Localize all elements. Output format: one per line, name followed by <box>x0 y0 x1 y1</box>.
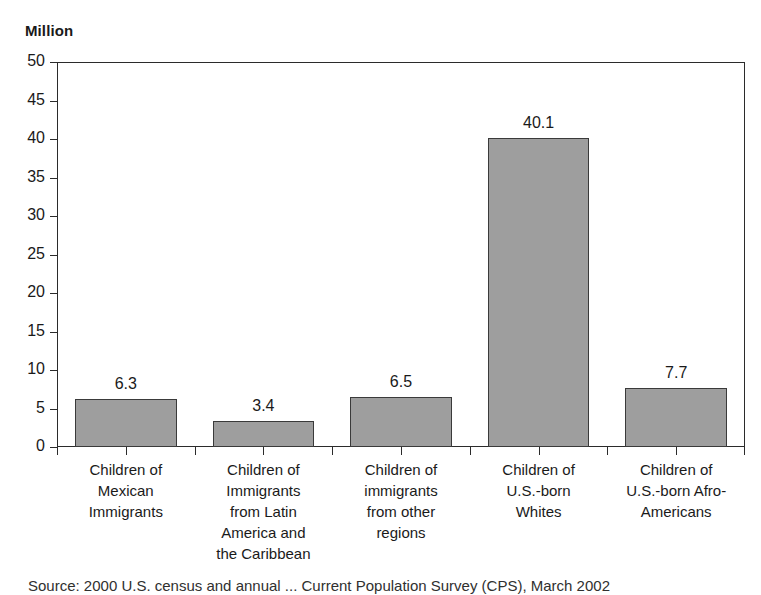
y-axis-tick-mark <box>50 178 57 179</box>
x-axis-tick-mark <box>607 447 608 455</box>
x-axis-category-labels: Children ofMexicanImmigrantsChildren ofI… <box>57 459 745 569</box>
y-axis-tick-mark <box>50 293 57 294</box>
x-axis-category-label-line: Americans <box>607 501 745 522</box>
y-axis-tick-label: 35 <box>27 167 45 187</box>
bar-value-label: 3.4 <box>195 396 333 415</box>
y-axis-tick-mark <box>50 332 57 333</box>
bar <box>488 138 590 447</box>
x-axis-category-label: Children ofU.S.-born Afro-Americans <box>607 459 745 522</box>
y-axis-tick-label: 25 <box>27 244 45 264</box>
y-axis-tick-mark <box>50 62 57 63</box>
y-axis-tick-mark <box>50 447 57 448</box>
bar-group: 6.3 <box>57 62 195 447</box>
x-axis-tick-mark <box>676 447 677 455</box>
y-axis-tick-label: 20 <box>27 282 45 302</box>
x-axis-category-label: Children ofImmigrantsfrom LatinAmerica a… <box>195 459 333 564</box>
bar <box>625 388 727 447</box>
bar-value-label: 7.7 <box>607 363 745 382</box>
y-axis-tick-label: 0 <box>36 436 45 456</box>
y-axis-tick-label: 50 <box>27 51 45 71</box>
x-axis-category-label-line: immigrants <box>332 480 470 501</box>
y-axis-tick-mark <box>50 216 57 217</box>
y-axis-tick-mark <box>50 409 57 410</box>
bars-layer: 6.33.46.540.17.7 <box>57 62 745 447</box>
x-axis-category-label: Children ofU.S.-bornWhites <box>470 459 608 522</box>
x-axis-category-label-line: U.S.-born Afro- <box>607 480 745 501</box>
x-axis-ticks <box>57 447 745 457</box>
y-axis-tick-mark <box>50 255 57 256</box>
y-axis-tick-mark <box>50 370 57 371</box>
x-axis-tick-mark <box>263 447 264 455</box>
y-axis-tick-label: 45 <box>27 90 45 110</box>
bar <box>213 421 315 447</box>
x-axis-tick-mark <box>539 447 540 455</box>
x-axis-category-label-line: U.S.-born <box>470 480 608 501</box>
x-axis-category-label-line: Children of <box>470 459 608 480</box>
x-axis-category-label-line: America and <box>195 522 333 543</box>
bar <box>350 397 452 447</box>
bar-group: 40.1 <box>470 62 608 447</box>
bar-value-label: 6.5 <box>332 372 470 391</box>
x-axis-category-label-line: Children of <box>332 459 470 480</box>
y-axis-tick-label: 15 <box>27 321 45 341</box>
x-axis-tick-mark <box>195 447 196 455</box>
x-axis-tick-mark <box>401 447 402 455</box>
bar-value-label: 40.1 <box>470 113 608 132</box>
x-axis-category-label-line: from Latin <box>195 501 333 522</box>
y-axis-tick-label: 30 <box>27 205 45 225</box>
x-axis-category-label-line: Children of <box>607 459 745 480</box>
x-axis-category-label-line: Immigrants <box>195 480 333 501</box>
y-axis-tick-mark <box>50 101 57 102</box>
x-axis-category-label: Children ofMexicanImmigrants <box>57 459 195 522</box>
x-axis-category-label: Children ofimmigrantsfrom otherregions <box>332 459 470 543</box>
x-axis-tick-mark <box>470 447 471 455</box>
bar-group: 6.5 <box>332 62 470 447</box>
x-axis-category-label-line: from other <box>332 501 470 522</box>
x-axis-category-label-line: Whites <box>470 501 608 522</box>
bar-group: 7.7 <box>607 62 745 447</box>
x-axis-category-label-line: Children of <box>195 459 333 480</box>
x-axis-category-label-line: Children of <box>57 459 195 480</box>
source-note: Source: 2000 U.S. census and annual ... … <box>28 577 748 595</box>
y-axis-tick-label: 40 <box>27 128 45 148</box>
bar <box>75 399 177 448</box>
x-axis-category-label-line: Immigrants <box>57 501 195 522</box>
y-axis-tick-label: 5 <box>36 398 45 418</box>
y-axis-tick-label: 10 <box>27 359 45 379</box>
x-axis-category-label-line: Mexican <box>57 480 195 501</box>
x-axis-category-label-line: regions <box>332 522 470 543</box>
bar-group: 3.4 <box>195 62 333 447</box>
x-axis-tick-mark <box>744 447 745 455</box>
x-axis-tick-mark <box>332 447 333 455</box>
bar-value-label: 6.3 <box>57 374 195 393</box>
x-axis-tick-mark <box>126 447 127 455</box>
x-axis-category-label-line: the Caribbean <box>195 543 333 564</box>
x-axis-tick-mark <box>57 447 58 455</box>
y-axis-tick-mark <box>50 139 57 140</box>
y-axis-unit-title: Million <box>25 22 73 39</box>
